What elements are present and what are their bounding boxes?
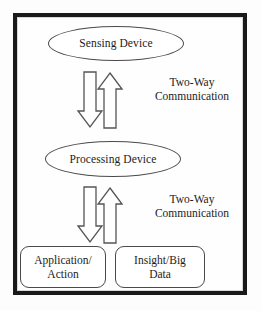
node-sensing-device-label: Sensing Device	[79, 37, 152, 50]
connector-label-bottom: Two-Way Communication	[140, 192, 244, 220]
connector-label-bottom-line1: Two-Way	[140, 192, 244, 206]
node-processing-device[interactable]: Processing Device	[45, 141, 181, 177]
node-insight-big-data-label: Insight/Big Data	[134, 253, 186, 281]
node-application-action-label: Application/ Action	[34, 253, 92, 281]
connector-label-top-line2: Communication	[140, 89, 244, 103]
connector-label-top-line1: Two-Way	[140, 75, 244, 89]
node-insight-big-data-line2: Data	[134, 267, 186, 281]
arrow-down-icon	[78, 187, 102, 242]
node-application-action[interactable]: Application/ Action	[20, 246, 106, 288]
connector-sensing-to-processing	[77, 71, 123, 129]
connector-label-bottom-line2: Communication	[140, 206, 244, 220]
node-application-action-line1: Application/	[34, 253, 92, 267]
arrow-up-icon	[98, 188, 122, 243]
arrow-down-icon	[78, 72, 102, 127]
node-sensing-device[interactable]: Sensing Device	[48, 26, 184, 61]
connector-label-top: Two-Way Communication	[140, 75, 244, 103]
arrow-up-icon	[98, 73, 122, 128]
connector-processing-to-outputs	[77, 186, 123, 244]
node-insight-big-data[interactable]: Insight/Big Data	[115, 246, 205, 288]
node-processing-device-label: Processing Device	[70, 153, 157, 166]
diagram-canvas: Sensing Device Two-Way Communication Pro…	[0, 0, 261, 311]
node-application-action-line2: Action	[34, 267, 92, 281]
node-insight-big-data-line1: Insight/Big	[134, 253, 186, 267]
